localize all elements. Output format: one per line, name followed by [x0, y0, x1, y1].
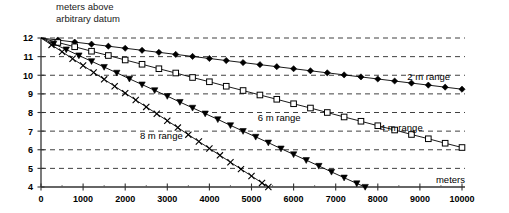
data-point-marker [215, 117, 221, 123]
y-tick-label: 12 [23, 33, 33, 43]
data-point-marker [173, 70, 179, 76]
data-point-marker [139, 82, 145, 88]
data-point-marker [425, 82, 431, 88]
data-point-marker [154, 111, 160, 117]
data-point-marker [89, 48, 95, 54]
data-point-marker [139, 61, 145, 67]
x-tick-label: 4000 [199, 194, 219, 204]
data-point-marker [151, 88, 157, 94]
data-point-marker [106, 53, 112, 59]
chart-series-3: 6 m range [41, 38, 368, 190]
chart-series-4: 8 m range [41, 38, 271, 190]
y-tick-label: 9 [28, 89, 33, 99]
data-point-marker [459, 145, 465, 151]
x-tick-label: 6000 [284, 194, 304, 204]
data-point-marker [88, 41, 94, 47]
data-point-marker [101, 76, 107, 82]
data-point-marker [177, 99, 183, 105]
data-point-marker [139, 47, 145, 53]
data-point-marker [202, 111, 208, 117]
data-point-marker [126, 76, 132, 82]
x-tick-label: 8000 [368, 194, 388, 204]
data-point-marker [303, 158, 309, 164]
data-point-marker [290, 152, 296, 158]
series-label-4: 8 m range [140, 130, 183, 141]
series-label-1: 2 m range [407, 71, 450, 82]
data-point-marker [459, 86, 465, 92]
data-point-marker [59, 49, 65, 55]
data-point-marker [156, 49, 162, 55]
x-tick-label: 3000 [157, 194, 177, 204]
data-point-marker [122, 45, 128, 51]
data-point-marker [223, 57, 229, 63]
y-tick-label: 6 [28, 145, 33, 155]
data-point-marker [227, 123, 233, 129]
data-point-marker [341, 175, 347, 181]
y-tick-label: 7 [28, 127, 33, 137]
data-point-marker [259, 180, 265, 186]
chart-plot-area: 4567891011120100020003000400050006000700… [0, 0, 509, 213]
data-point-marker [274, 96, 280, 102]
data-point-marker [143, 104, 149, 110]
data-point-marker [426, 136, 432, 142]
data-point-marker [122, 90, 128, 96]
data-point-marker [341, 114, 347, 120]
data-point-marker [189, 105, 195, 111]
data-point-marker [91, 69, 97, 75]
data-point-marker [190, 75, 196, 81]
data-point-marker [442, 140, 448, 146]
data-point-marker [72, 44, 78, 50]
data-point-marker [80, 62, 86, 68]
data-point-marker [274, 64, 280, 70]
data-point-marker [328, 169, 334, 175]
data-point-marker [308, 105, 314, 111]
chart-axis-title-x: meters [436, 174, 465, 185]
data-point-marker [358, 74, 364, 80]
x-tick-label: 0 [38, 194, 43, 204]
data-point-marker [257, 62, 263, 68]
data-point-marker [88, 59, 94, 65]
data-point-marker [112, 83, 118, 89]
series-line [41, 38, 462, 89]
data-point-marker [207, 79, 213, 85]
data-point-marker [227, 159, 233, 165]
data-point-marker [307, 68, 313, 74]
x-tick-label: 5000 [241, 194, 261, 204]
data-point-marker [253, 134, 259, 140]
data-point-marker [164, 118, 170, 124]
data-point-marker [291, 66, 297, 72]
data-point-marker [324, 110, 330, 116]
data-point-marker [223, 83, 229, 89]
x-tick-label: 10000 [449, 194, 474, 204]
data-point-marker [392, 78, 398, 84]
data-point-marker [358, 118, 364, 124]
data-point-marker [240, 59, 246, 65]
data-point-marker [76, 53, 82, 59]
data-point-marker [442, 84, 448, 90]
data-point-marker [189, 53, 195, 59]
data-point-marker [257, 92, 263, 98]
y-tick-label: 4 [28, 182, 33, 192]
data-point-marker [375, 76, 381, 82]
y-tick-label: 11 [23, 52, 33, 62]
y-tick-label: 8 [28, 108, 33, 118]
data-point-marker [240, 88, 246, 94]
data-point-marker [354, 181, 360, 187]
x-tick-label: 7000 [326, 194, 346, 204]
data-point-marker [164, 94, 170, 100]
data-point-marker [278, 146, 284, 152]
x-tick-label: 1000 [73, 194, 93, 204]
data-point-marker [341, 72, 347, 78]
data-point-marker [248, 173, 254, 179]
chart-container: meters above arbitrary datum 45678910111… [0, 0, 509, 213]
data-point-marker [101, 64, 107, 70]
data-point-marker [156, 66, 162, 72]
data-point-marker [265, 140, 271, 146]
data-point-marker [185, 132, 191, 138]
data-point-marker [105, 43, 111, 49]
data-point-marker [238, 166, 244, 172]
x-tick-label: 9000 [410, 194, 430, 204]
y-tick-label: 5 [28, 164, 33, 174]
series-label-2: 4 m range [380, 122, 423, 133]
data-point-marker [122, 57, 128, 63]
